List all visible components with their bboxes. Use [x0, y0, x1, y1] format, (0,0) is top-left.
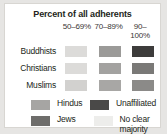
legend-label-no-clear-majority: No clear majority — [120, 115, 150, 134]
swatch-muslims-50-69 — [65, 80, 87, 91]
row-label-muslims: Muslims — [5, 80, 59, 90]
column-header-50-69: 50–69% — [61, 22, 93, 40]
table-row: Buddhists — [5, 43, 160, 59]
swatch-cell — [126, 63, 160, 74]
legend-label-unaffiliated: Unaffiliated — [116, 99, 156, 109]
swatch-christians-90-100 — [132, 63, 154, 74]
swatch-cell — [126, 46, 160, 57]
column-header-70-89: 70–89% — [93, 22, 125, 40]
swatch-cell — [126, 80, 160, 91]
swatch-buddhists-90-100 — [132, 46, 154, 57]
legend-label-hindus: Hindus — [57, 99, 82, 109]
swatch-jews — [31, 116, 50, 126]
table-row: Muslims — [5, 77, 160, 93]
legend-label-jews: Jews — [57, 115, 76, 125]
legend-item-unaffiliated: Unaffiliated — [90, 99, 156, 110]
swatch-matrix: Buddhists Christians Muslims — [5, 43, 160, 93]
legend-row: Jews No clear majority — [31, 115, 156, 134]
swatch-muslims-70-89 — [99, 80, 121, 91]
swatch-cell — [93, 80, 127, 91]
swatch-cell — [59, 80, 93, 91]
swatch-christians-70-89 — [99, 63, 121, 74]
legend-row: Hindus Unaffiliated — [31, 99, 156, 110]
swatch-no-clear-majority — [94, 116, 113, 126]
map-legend-card: Percent of all adherents 50–69% 70–89% 9… — [4, 3, 161, 128]
swatch-muslims-90-100 — [132, 80, 154, 91]
swatch-unaffiliated — [90, 100, 109, 110]
legend-item-jews: Jews — [31, 115, 94, 126]
legend-item-no-clear-majority: No clear majority — [94, 115, 157, 134]
row-label-buddhists: Buddhists — [5, 46, 59, 56]
swatch-christians-50-69 — [65, 63, 87, 74]
swatch-cell — [59, 46, 93, 57]
swatch-buddhists-70-89 — [99, 46, 121, 57]
legend-list: Hindus Unaffiliated Jews No clear majori… — [5, 99, 160, 134]
swatch-hindus — [31, 100, 50, 110]
swatch-cell — [59, 63, 93, 74]
column-header-90-100: 90–100% — [124, 22, 156, 40]
legend-item-hindus: Hindus — [31, 99, 90, 110]
column-header-row: 50–69% 70–89% 90–100% — [5, 22, 160, 40]
swatch-buddhists-50-69 — [65, 46, 87, 57]
table-row: Christians — [5, 60, 160, 76]
row-label-christians: Christians — [5, 63, 59, 73]
swatch-cell — [93, 63, 127, 74]
chart-title: Percent of all adherents — [5, 9, 160, 19]
swatch-cell — [93, 46, 127, 57]
